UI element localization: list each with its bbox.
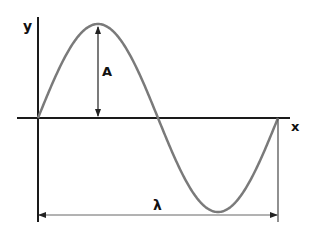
diagram-canvas: y x A λ [0, 0, 313, 233]
y-axis-label: y [23, 18, 32, 34]
x-axis-label: x [291, 119, 300, 134]
wavelength-label: λ [153, 197, 162, 213]
sine-wave-diagram: y x A λ [0, 0, 313, 233]
amplitude-label: A [102, 64, 112, 79]
